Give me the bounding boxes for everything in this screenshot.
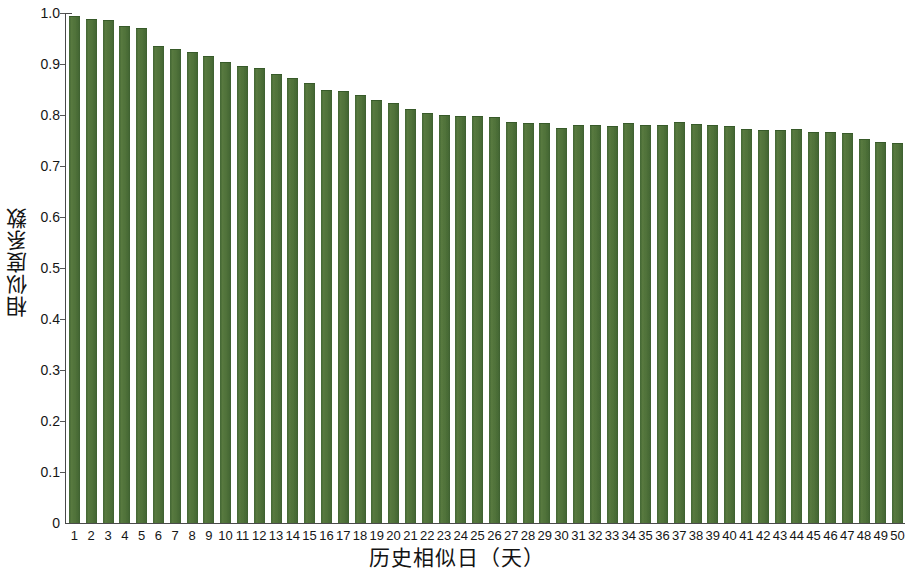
bar [86, 19, 97, 523]
bar [791, 129, 802, 523]
bar [875, 142, 886, 523]
bar [237, 66, 248, 523]
bar [321, 90, 332, 524]
bar [506, 122, 517, 523]
bar [304, 83, 315, 523]
bar [842, 133, 853, 523]
y-axis-tick-label: 0.5 [26, 260, 60, 276]
bar [623, 123, 634, 523]
y-axis-tick-label: 0.4 [26, 311, 60, 327]
bar [707, 125, 718, 523]
bar [69, 16, 80, 523]
y-axis-tick-label: 0.9 [26, 56, 60, 72]
bar [539, 123, 550, 523]
bar [523, 123, 534, 523]
bar [355, 95, 366, 523]
y-axis-tick-label: 0.2 [26, 413, 60, 429]
y-axis-tick-label: 0.1 [26, 464, 60, 480]
y-axis-tick-label: 0.8 [26, 107, 60, 123]
bar [338, 91, 349, 523]
bar [371, 100, 382, 523]
bar [573, 125, 584, 523]
y-axis-tick-label: 0 [26, 515, 60, 531]
bar [439, 115, 450, 523]
bar [657, 125, 668, 523]
x-axis-line [65, 523, 905, 524]
bar [607, 126, 618, 523]
bar [640, 125, 651, 523]
bar [388, 103, 399, 523]
bar [590, 125, 601, 523]
bar [271, 74, 282, 523]
bar [422, 113, 433, 523]
bar [153, 46, 164, 523]
bar [808, 132, 819, 523]
bar [892, 143, 903, 523]
x-axis-title-text: 历史相似日（天） [369, 546, 545, 570]
bar [170, 49, 181, 523]
bar [775, 130, 786, 523]
bar [254, 68, 265, 523]
bar [103, 20, 114, 523]
y-axis-tick-labels: 1.00.90.80.70.60.50.40.30.20.10 [26, 0, 60, 567]
bar [187, 52, 198, 523]
y-axis-tick-label: 1.0 [26, 5, 60, 21]
bar [455, 116, 466, 523]
bar [489, 117, 500, 523]
bar [405, 109, 416, 523]
bar [674, 122, 685, 523]
bar [859, 139, 870, 523]
bar [556, 128, 567, 523]
y-axis-tick-label: 0.6 [26, 209, 60, 225]
plot-area [66, 0, 906, 523]
bar [741, 129, 752, 523]
bar [825, 132, 836, 523]
y-axis-tick-label: 0.3 [26, 362, 60, 378]
bar [724, 126, 735, 523]
bar [136, 28, 147, 523]
x-axis-title: 历史相似日（天） [0, 541, 914, 571]
bar [691, 124, 702, 523]
bar [472, 116, 483, 523]
bar [758, 130, 769, 523]
y-axis-tick-label: 0.7 [26, 158, 60, 174]
bar [287, 78, 298, 523]
bar [119, 26, 130, 523]
bar [220, 62, 231, 523]
bar [203, 56, 214, 523]
